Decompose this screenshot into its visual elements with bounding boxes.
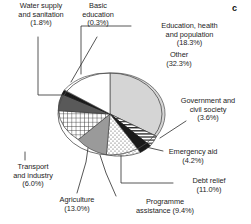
label-emergency-aid-line2: (4.2%) — [152, 157, 234, 166]
label-other-line2: (32.3%) — [150, 60, 208, 69]
label-education-health-line3: (18.3%) — [133, 39, 246, 48]
label-programme-assistance-line2: assistance (9.4%) — [111, 207, 219, 216]
label-debt-relief: Debt relief (11.0%) — [176, 177, 242, 194]
label-transport-line3: (6.0%) — [0, 180, 66, 189]
label-government-line3: (3.6%) — [165, 114, 251, 123]
label-programme-assistance: Programme assistance (9.4%) — [111, 198, 219, 215]
panel-letter: c — [232, 3, 237, 13]
pie-chart-figure: Water supply and sanitation (1.8%) Basic… — [0, 0, 251, 224]
label-government-and-civil-society: Government and civil society (3.6%) — [165, 97, 251, 123]
label-basic-education: Basic education (0.3%) — [70, 2, 126, 28]
label-education-health-and-population: Education, health and population (18.3%) — [133, 22, 246, 48]
leader-line-programme-assistance — [100, 155, 116, 196]
label-agriculture: Agriculture (13.0%) — [41, 196, 113, 213]
label-other: Other (32.3%) — [150, 51, 208, 68]
label-agriculture-line2: (13.0%) — [41, 205, 113, 214]
label-debt-relief-line2: (11.0%) — [176, 186, 242, 195]
label-basic-education-line3: (0.3%) — [70, 19, 126, 28]
leader-line-water-supply — [38, 37, 63, 95]
label-emergency-aid: Emergency aid (4.2%) — [152, 148, 234, 165]
leader-line-agriculture — [77, 148, 88, 193]
leader-line-education-health — [81, 26, 131, 74]
label-transport-and-industry: Transport and industry (6.0%) — [0, 163, 66, 189]
